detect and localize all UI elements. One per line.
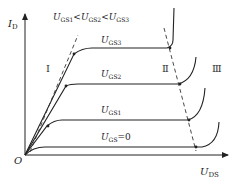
curve-label-ugs2: UGS2 [101,69,121,80]
knee-dot [47,125,50,128]
region-label-3: Ⅲ [212,63,222,74]
origin-label: O [14,155,22,166]
dashed-boundary-right [164,28,196,151]
curve-label-ugs1: UGS1 [101,105,121,116]
y-axis-label: ID [7,18,18,31]
knee-dot [188,119,191,122]
mosfet-output-characteristics: ID UDS O UGS1<UGS2<UGS3 UGS3 UGS2 UGS1 U… [0,0,235,179]
condition-label: UGS1<UGS2<UGS3 [53,12,129,23]
curve-label-ugs0: UGS=0 [101,132,131,143]
region-label-2: Ⅱ [162,63,169,74]
knee-dot [65,85,68,88]
region-label-1: Ⅰ [46,63,50,74]
x-axis-label: UDS [200,166,219,179]
curve-ugs3 [25,8,174,155]
knee-dot [169,47,172,50]
knee-dot [179,83,182,86]
curve-label-ugs3: UGS3 [101,35,121,46]
knee-dot [195,146,198,149]
knee-dot [73,53,76,56]
